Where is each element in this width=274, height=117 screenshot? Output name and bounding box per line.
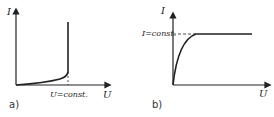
diagram: I U=const. U a) I I=const. U b) (0, 0, 274, 117)
diagram-graphics (0, 0, 274, 117)
panel-b-axes (173, 15, 268, 85)
panel-b-caption: b) (152, 100, 162, 110)
panel-a-y-label: I (7, 7, 11, 17)
panel-a-caption: a) (9, 100, 19, 110)
panel-a-curve (16, 22, 68, 85)
panel-b-y-label: I (161, 6, 165, 16)
panel-a-axes (16, 11, 108, 85)
panel-b-curve (173, 34, 252, 85)
panel-b-x-label: U (259, 89, 267, 99)
panel-b-marker-label: I=const. (142, 30, 176, 38)
panel-a-marker-label: U=const. (50, 91, 88, 99)
panel-a-x-label: U (103, 90, 111, 100)
